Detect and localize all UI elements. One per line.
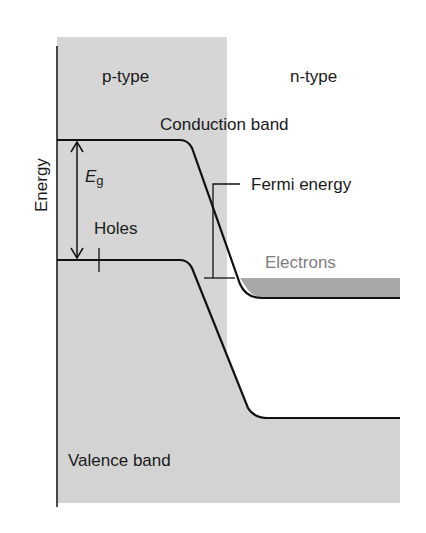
- band-diagram-graphic: [0, 0, 426, 533]
- band-gap-symbol: E: [85, 167, 96, 186]
- energy-axis-label: Energy: [33, 158, 50, 212]
- p-type-label: p-type: [102, 68, 149, 85]
- n-type-label: n-type: [290, 68, 337, 85]
- electrons-fill: [240, 278, 400, 298]
- fermi-energy-label: Fermi energy: [251, 176, 351, 193]
- band-gap-label: Eg: [85, 168, 104, 187]
- holes-label: Holes: [94, 220, 137, 237]
- band-gap-subscript: g: [96, 173, 103, 188]
- electrons-label: Electrons: [265, 254, 336, 271]
- valence-band-label: Valence band: [68, 452, 171, 469]
- band-diagram: Energy p-type n-type Conduction band Eg …: [0, 0, 426, 533]
- conduction-band-label: Conduction band: [160, 116, 289, 133]
